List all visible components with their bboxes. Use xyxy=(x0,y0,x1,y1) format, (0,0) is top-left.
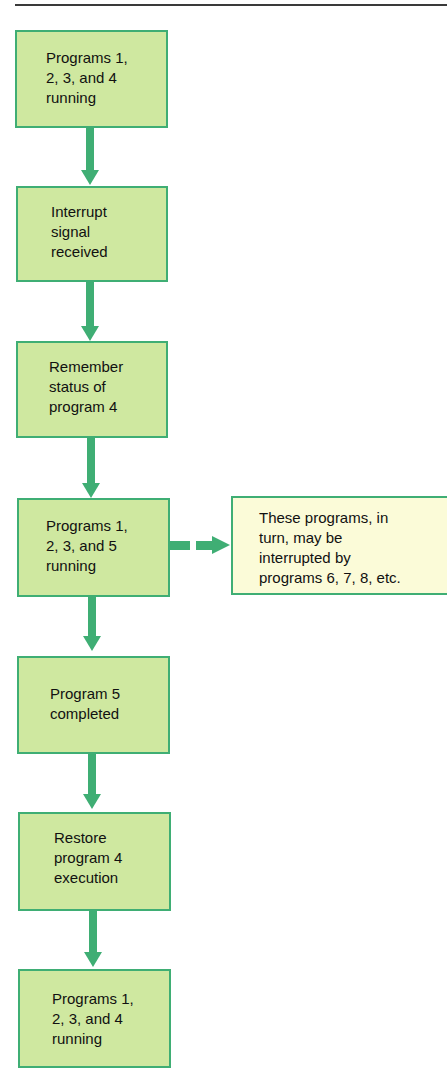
arrow-shaft xyxy=(86,128,94,172)
step-label: Program 5 completed xyxy=(50,684,120,724)
arrow-shaft xyxy=(88,754,96,795)
step-label: Restore program 4 execution xyxy=(54,828,122,888)
down-arrow-icon xyxy=(84,952,102,967)
step-box-7: Programs 1, 2, 3, and 4 running xyxy=(18,969,171,1068)
down-arrow-icon xyxy=(81,170,99,185)
step-box-6: Restore program 4 execution xyxy=(18,812,171,911)
dashed-arrow-shaft-1 xyxy=(170,541,190,550)
arrow-shaft xyxy=(89,911,97,953)
step-box-2: Interrupt signal received xyxy=(16,186,168,282)
down-arrow-icon xyxy=(83,794,101,809)
step-box-3: Remember status of program 4 xyxy=(16,341,168,438)
down-arrow-icon xyxy=(83,636,101,651)
down-arrow-icon xyxy=(82,483,100,498)
step-label: Programs 1, 2, 3, and 5 running xyxy=(46,516,128,576)
step-label: Interrupt signal received xyxy=(51,202,108,262)
side-note-label: These programs, in turn, may be interrup… xyxy=(259,508,401,588)
step-label: Remember status of program 4 xyxy=(49,357,123,417)
step-label: Programs 1, 2, 3, and 4 running xyxy=(46,48,128,108)
arrow-shaft xyxy=(88,597,96,637)
arrow-shaft xyxy=(86,282,94,327)
top-rule xyxy=(15,4,447,6)
side-note-box: These programs, in turn, may be interrup… xyxy=(231,496,447,595)
step-box-4: Programs 1, 2, 3, and 5 running xyxy=(17,498,170,597)
step-box-1: Programs 1, 2, 3, and 4 running xyxy=(15,30,168,128)
step-box-5: Program 5 completed xyxy=(17,656,170,754)
down-arrow-icon xyxy=(81,326,99,341)
step-label: Programs 1, 2, 3, and 4 running xyxy=(52,989,134,1049)
right-arrow-icon xyxy=(212,536,230,554)
arrow-shaft xyxy=(87,438,95,484)
